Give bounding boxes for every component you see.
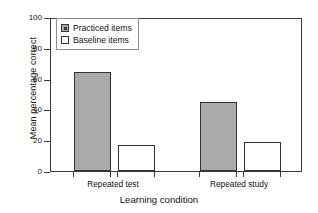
legend: Practiced items Baseline items xyxy=(56,18,139,50)
y-tick-mark xyxy=(44,172,50,173)
filled-gray-square-icon xyxy=(61,24,69,32)
y-tick-label: 40 xyxy=(33,105,42,114)
x-tick-mark-4 xyxy=(199,172,200,177)
x-tick-mark-5 xyxy=(236,172,237,177)
x-tick-mark-1 xyxy=(110,172,111,177)
y-tick-label: 80 xyxy=(33,44,42,53)
y-tick-label: 100 xyxy=(29,13,42,22)
x-tick-mark-7 xyxy=(280,172,281,177)
x-tick-mark-2 xyxy=(117,172,118,177)
x-tick-mark-3 xyxy=(154,172,155,177)
bar-practiced-0 xyxy=(74,72,111,171)
x-axis-title: Learning condition xyxy=(0,194,318,205)
empty-white-square-icon xyxy=(61,36,69,44)
x-tick-label-0: Repeated test xyxy=(53,179,173,189)
x-tick-mark-6 xyxy=(243,172,244,177)
y-tick-label: 60 xyxy=(33,75,42,84)
bar-baseline-1 xyxy=(244,142,281,171)
bar-practiced-1 xyxy=(200,102,237,171)
legend-label-baseline: Baseline items xyxy=(73,35,129,45)
bar-baseline-0 xyxy=(118,145,155,171)
legend-label-practiced: Practiced items xyxy=(73,23,132,33)
x-tick-mark-0 xyxy=(73,172,74,177)
y-tick-label: 0 xyxy=(38,167,42,176)
legend-item-practiced: Practiced items xyxy=(61,22,132,34)
x-tick-label-1: Repeated study xyxy=(179,179,299,189)
legend-item-baseline: Baseline items xyxy=(61,34,132,46)
y-tick-label: 20 xyxy=(33,136,42,145)
bar-chart-figure: Mean percentage correct 100806040200 Rep… xyxy=(0,0,318,213)
